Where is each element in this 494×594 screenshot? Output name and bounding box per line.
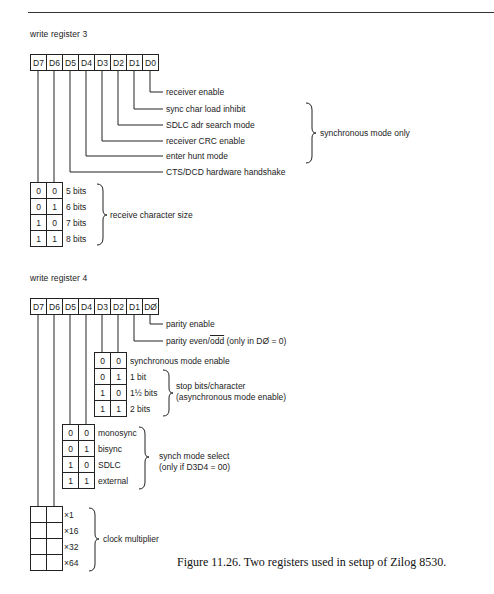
bit-value: 1 <box>47 231 62 246</box>
parity-label-post: (only in DØ = 0) <box>224 336 286 346</box>
stop-bits-table: 0 0 0 1 1 0 1 1 <box>94 352 127 417</box>
sync-monosync: monosync <box>98 428 137 438</box>
bit-value: 1 <box>47 199 62 214</box>
clock-group-label: clock multiplier <box>103 534 159 544</box>
sync-bisync: bisync <box>98 444 122 454</box>
bit-value: 1 <box>31 231 47 246</box>
register4-bit-d0: DØ <box>143 299 158 314</box>
clock-x1: ×1 <box>64 510 74 520</box>
bit-value: 0 <box>63 425 79 440</box>
table-row: 0 0 <box>63 425 94 441</box>
bit-value: 1 <box>31 215 47 230</box>
bit-value: 1 <box>79 441 94 456</box>
bit-value: 1 <box>63 473 79 488</box>
bit-value: 0 <box>95 369 111 384</box>
bit-value: 1 <box>63 457 79 472</box>
bit-value: 0 <box>63 441 79 456</box>
bit-value: 0 <box>47 215 62 230</box>
table-row <box>31 507 62 523</box>
bit-value <box>31 555 47 570</box>
stop-2-bits: 2 bits <box>130 404 150 414</box>
register4-title: write register 4 <box>30 273 87 283</box>
register4-bit-d7: D7 <box>31 299 47 314</box>
bit-value: 0 <box>95 353 111 368</box>
bit-value: 0 <box>31 183 47 198</box>
table-row <box>31 539 62 555</box>
register4-bit-d6: D6 <box>47 299 63 314</box>
parity-label-odd: odd <box>210 336 224 346</box>
clock-x16: ×16 <box>64 526 78 536</box>
table-row: 1 1 <box>31 231 62 246</box>
bit-value: 1 <box>95 385 111 400</box>
char-size-6: 6 bits <box>66 202 86 212</box>
table-row: 1 1 <box>95 401 126 416</box>
register3-label-d0: receiver enable <box>166 87 224 97</box>
char-size-5: 5 bits <box>66 186 86 196</box>
register4-bit-row: D7 D6 D5 D4 D3 D2 D1 DØ <box>30 298 159 315</box>
sync-mode-only-label: synchronous mode only <box>320 128 410 138</box>
register4-bit-d4: D4 <box>79 299 95 314</box>
register4-bit-d2: D2 <box>111 299 127 314</box>
table-row: 1 0 <box>31 215 62 231</box>
sync-mode-table: 0 0 0 1 1 0 1 1 <box>62 424 95 489</box>
bit-value <box>47 555 62 570</box>
stop-bits-group-label-2: (asynchronous mode enable) <box>176 392 286 402</box>
bit-value: 0 <box>47 183 62 198</box>
bit-value: 1 <box>111 401 126 416</box>
char-size-7: 7 bits <box>66 218 86 228</box>
table-row: 0 0 <box>31 183 62 199</box>
sync-mode-group-label-1: synch mode select <box>159 451 229 461</box>
table-row: 0 0 <box>95 353 126 369</box>
register3-label-d4: enter hunt mode <box>166 151 228 161</box>
table-row: 0 1 <box>95 369 126 385</box>
bit-value: 1 <box>79 473 94 488</box>
register4-label-d0: parity enable <box>166 319 215 329</box>
bit-value: 0 <box>111 353 126 368</box>
bit-value <box>31 507 47 522</box>
bit-value: 1 <box>111 369 126 384</box>
clock-multiplier-table <box>30 506 63 571</box>
bit-value <box>31 523 47 538</box>
char-size-group-label: receive character size <box>110 210 193 220</box>
char-size-table: 0 0 0 1 1 0 1 1 <box>30 182 63 247</box>
register4-label-d1: parity even/odd (only in DØ = 0) <box>166 336 286 346</box>
table-row: 0 1 <box>63 441 94 457</box>
bit-value: 0 <box>31 199 47 214</box>
bit-value <box>31 539 47 554</box>
bit-value <box>47 539 62 554</box>
figure-caption: Figure 11.26. Two registers used in setu… <box>177 555 446 570</box>
clock-x32: ×32 <box>64 542 78 552</box>
sync-external: external <box>98 476 128 486</box>
stop-1-5-bits: 1½ bits <box>130 388 157 398</box>
table-row: 1 1 <box>63 473 94 488</box>
table-row <box>31 555 62 570</box>
parity-label-pre: parity even/ <box>166 336 210 346</box>
bit-value <box>47 523 62 538</box>
register4-bit-d1: D1 <box>127 299 143 314</box>
table-row: 0 1 <box>31 199 62 215</box>
table-row: 1 0 <box>63 457 94 473</box>
char-size-8: 8 bits <box>66 234 86 244</box>
register3-label-d3: receiver CRC enable <box>166 136 245 146</box>
register4-bit-d5: D5 <box>63 299 79 314</box>
bit-value: 0 <box>111 385 126 400</box>
clock-x64: ×64 <box>64 558 78 568</box>
sync-sdlc: SDLC <box>98 460 121 470</box>
stop-sync-enable: synchronous mode enable <box>130 356 230 366</box>
stop-bits-group-label-1: stop bits/character <box>176 381 245 391</box>
bit-value: 0 <box>79 457 94 472</box>
sync-mode-group-label-2: (only if D3D4 = 00) <box>159 462 230 472</box>
register4-bit-d3: D3 <box>95 299 111 314</box>
register3-label-d1: sync char load inhibit <box>166 104 245 114</box>
connector-lines <box>0 0 494 594</box>
bit-value <box>47 507 62 522</box>
register3-label-d5: CTS/DCD hardware handshake <box>166 167 286 177</box>
bit-value: 1 <box>95 401 111 416</box>
table-row: 1 0 <box>95 385 126 401</box>
table-row <box>31 523 62 539</box>
bit-value: 0 <box>79 425 94 440</box>
stop-1-bit: 1 bit <box>130 372 146 382</box>
register3-label-d2: SDLC adr search mode <box>166 120 255 130</box>
